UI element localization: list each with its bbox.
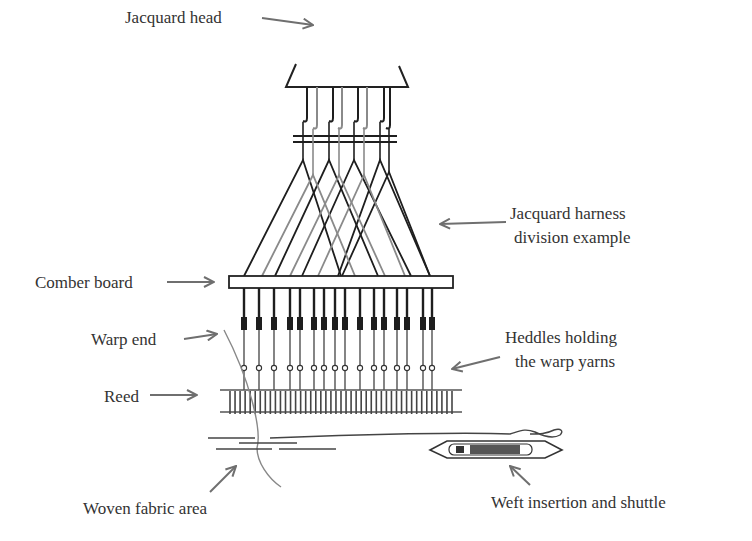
- jacquard-head: [286, 64, 408, 87]
- label-harness-line1: Jacquard harness: [510, 204, 626, 223]
- reed: [220, 390, 462, 414]
- neck-cords: [303, 122, 389, 175]
- griffe-bars: [293, 136, 397, 142]
- label-heddles-line2: the warp yarns: [515, 352, 615, 371]
- label-woven-fabric: Woven fabric area: [83, 499, 208, 518]
- arrow-woven-fabric: [210, 466, 236, 492]
- harness-cords: [244, 160, 430, 276]
- label-warp-end: Warp end: [91, 330, 157, 349]
- warp-ends: [241, 288, 435, 390]
- warp-end-curve: [224, 330, 281, 487]
- label-comber-board: Comber board: [35, 273, 133, 292]
- label-harness-line2: division example: [514, 228, 631, 247]
- shuttle: [430, 441, 562, 458]
- label-weft: Weft insertion and shuttle: [491, 493, 666, 512]
- label-jacquard-head: Jacquard head: [125, 8, 222, 27]
- arrow-heddles: [452, 357, 500, 369]
- weft-yarn: [270, 429, 562, 438]
- label-reed: Reed: [104, 387, 139, 406]
- jacquard-hooks: [303, 87, 390, 129]
- comber-board: [229, 276, 453, 288]
- arrow-weft: [510, 466, 530, 485]
- jacquard-loom-diagram: Jacquard head Jacquard harness division …: [0, 0, 752, 541]
- arrow-harness: [440, 222, 506, 224]
- arrow-warp-end: [184, 334, 217, 339]
- arrow-jacquard-head: [262, 18, 313, 25]
- woven-fabric: [208, 438, 336, 449]
- label-heddles-line1: Heddles holding: [505, 328, 617, 347]
